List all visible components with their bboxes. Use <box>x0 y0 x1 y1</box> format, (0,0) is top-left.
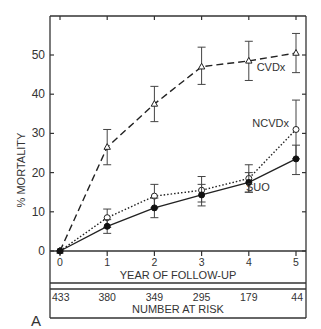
risk-count: 179 <box>240 291 258 303</box>
risk-count: 295 <box>193 291 211 303</box>
triangle-marker <box>293 50 299 56</box>
x-axis-label: YEAR OF FOLLOW-UP <box>120 269 237 281</box>
filled-circle-marker <box>151 205 157 211</box>
filled-circle-marker <box>293 156 299 162</box>
x-tick-label: 4 <box>246 256 252 268</box>
x-tick-label: 3 <box>199 256 205 268</box>
y-tick-label: 30 <box>32 126 46 140</box>
x-tick-label: 1 <box>104 256 110 268</box>
risk-count: 44 <box>291 291 303 303</box>
series-label-cvdx: CVDx <box>257 61 286 73</box>
x-tick-label: 5 <box>293 256 299 268</box>
mortality-chart: 01020304050 012345 % MORTALITY YEAR OF F… <box>0 0 321 329</box>
filled-circle-marker <box>104 223 110 229</box>
y-axis-label: % MORTALITY <box>15 132 27 207</box>
triangle-marker <box>104 144 110 150</box>
open-circle-marker <box>293 126 299 132</box>
y-tick-label: 20 <box>32 166 46 180</box>
panel-label: A <box>31 312 41 329</box>
y-axis-ticks: 01020304050 <box>32 48 306 258</box>
y-tick-label: 10 <box>32 205 46 219</box>
risk-count: 433 <box>52 291 70 303</box>
x-axis-ticks: 012345 <box>57 16 299 268</box>
x-tick-label: 2 <box>151 256 157 268</box>
series-label-ncvdx: NCVDx <box>252 117 289 129</box>
filled-circle-marker <box>199 192 205 198</box>
filled-circle-marker <box>57 248 63 254</box>
series-label-suo: SUO <box>246 181 270 193</box>
risk-count: 380 <box>98 291 116 303</box>
series-suo <box>57 145 300 254</box>
x-tick-label: 0 <box>57 256 63 268</box>
number-at-risk-label: NUMBER AT RISK <box>132 303 225 315</box>
risk-count: 349 <box>146 291 164 303</box>
number-at-risk-row: 43338034929517944 <box>52 291 303 303</box>
y-tick-label: 50 <box>32 48 46 62</box>
y-tick-label: 0 <box>38 244 45 258</box>
y-tick-label: 40 <box>32 87 46 101</box>
triangle-marker <box>198 63 204 69</box>
